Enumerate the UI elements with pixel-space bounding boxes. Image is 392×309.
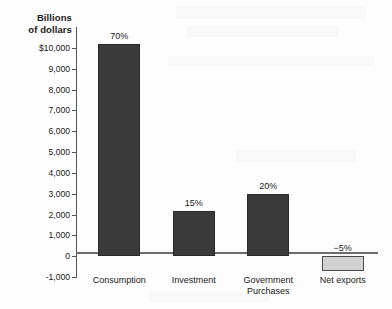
y-axis-tick-mark bbox=[72, 277, 77, 278]
bar-value-label: 70% bbox=[89, 32, 149, 41]
bar bbox=[98, 44, 140, 257]
bar-value-label: 15% bbox=[164, 199, 224, 208]
chart-figure: Billions of dollars -1,00001,0002,0003,0… bbox=[0, 0, 392, 309]
y-axis-tick-label: -1,000 bbox=[46, 273, 70, 282]
y-axis-tick-mark bbox=[72, 90, 77, 91]
y-axis-tick-mark bbox=[72, 194, 77, 195]
bar bbox=[247, 194, 289, 257]
y-axis-title-line-1: Billions bbox=[0, 12, 72, 24]
y-axis-tick-label: 1,000 bbox=[48, 231, 70, 240]
y-axis-tick-mark bbox=[72, 69, 77, 70]
y-axis-tick-label: 8,000 bbox=[48, 85, 70, 94]
bar bbox=[322, 256, 364, 271]
bar-value-label: 20% bbox=[238, 182, 298, 191]
y-axis-tick-mark bbox=[72, 256, 77, 257]
y-axis-tick-label: 3,000 bbox=[48, 189, 70, 198]
y-axis-tick-label: 5,000 bbox=[48, 148, 70, 157]
y-axis-tick-mark bbox=[72, 215, 77, 216]
x-axis-category-label: Consumption bbox=[79, 275, 159, 286]
y-axis-tick-mark bbox=[72, 235, 77, 236]
y-axis-tick-mark bbox=[72, 48, 77, 49]
y-axis-tick-label: $10,000 bbox=[39, 44, 70, 53]
y-axis-tick-mark bbox=[72, 152, 77, 153]
y-axis-tick-mark bbox=[72, 173, 77, 174]
x-axis-category-label: Government Purchases bbox=[228, 275, 308, 297]
x-axis-category-label: Net exports bbox=[303, 275, 383, 286]
y-axis-tick-label: 7,000 bbox=[48, 106, 70, 115]
bar bbox=[173, 211, 215, 256]
y-axis-tick-label: 4,000 bbox=[48, 169, 70, 178]
y-axis-tick-label: 0 bbox=[65, 252, 70, 261]
y-axis-tick-label: 9,000 bbox=[48, 64, 70, 73]
y-axis-tick-mark bbox=[72, 110, 77, 111]
plot-area: -1,00001,0002,0003,0004,0005,0006,0007,0… bbox=[76, 27, 380, 277]
y-axis-tick-mark bbox=[72, 131, 77, 132]
y-axis-title-line-2: of dollars bbox=[0, 24, 72, 36]
bar-value-label: −5% bbox=[313, 244, 373, 253]
y-axis-tick-label: 2,000 bbox=[48, 210, 70, 219]
x-axis-category-label: Investment bbox=[154, 275, 234, 286]
scan-bleed-artifact bbox=[176, 6, 366, 19]
y-axis-tick-label: 6,000 bbox=[48, 127, 70, 136]
y-axis-title: Billions of dollars bbox=[0, 12, 72, 35]
